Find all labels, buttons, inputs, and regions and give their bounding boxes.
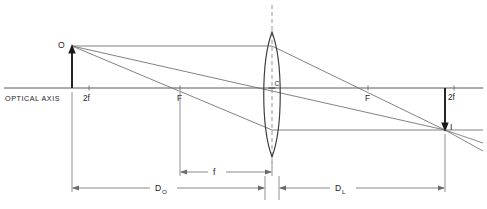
- object-arrow-head: [68, 44, 75, 54]
- mark-label-focal-right: F: [365, 94, 370, 103]
- dim-f-arrowhead-right: [265, 170, 272, 175]
- dim-dl-label: D: [335, 183, 341, 193]
- dim-do-label: D: [155, 183, 161, 193]
- dim-do-arrowhead-left: [72, 186, 79, 191]
- optical-axis-label: OPTICAL AXIS: [5, 94, 60, 103]
- mark-label-2f-left: 2f: [83, 94, 91, 103]
- mark-label-2f-right: 2f: [448, 93, 456, 102]
- dim-do-arrowhead-right: [258, 186, 265, 191]
- image-label: I: [450, 122, 452, 132]
- optics-ray-diagram: C O I OPTICAL AXIS 2f F F 2f f D O: [0, 0, 487, 209]
- dim-do-label-subscript: O: [162, 188, 167, 195]
- dim-f-label: f: [213, 167, 216, 177]
- diagram-canvas: C O I OPTICAL AXIS 2f F F 2f f D O: [0, 0, 487, 209]
- dim-dl-arrowhead-right: [438, 186, 445, 191]
- lens-center-label: C: [275, 80, 280, 87]
- dim-dl-arrowhead-left: [279, 186, 286, 191]
- dim-dl-label-subscript: L: [342, 188, 346, 195]
- object-label: O: [58, 40, 65, 50]
- ray-continuation-lower: [445, 130, 483, 151]
- mark-label-focal-left: F: [177, 94, 182, 103]
- dim-f-arrowhead-left: [180, 170, 187, 175]
